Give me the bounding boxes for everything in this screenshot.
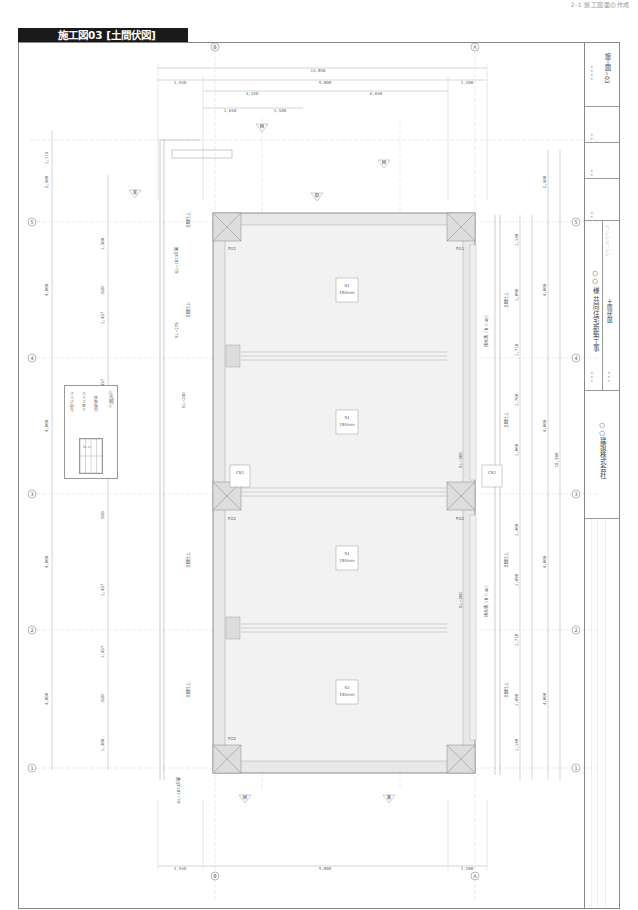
svg-text:土間仕上: 土間仕上 — [185, 302, 191, 318]
svg-text:9,800: 9,800 — [319, 80, 332, 85]
bottom-dimension-lines — [158, 800, 487, 870]
svg-text:土間仕上: 土間仕上 — [503, 682, 509, 698]
svg-text:SL−275: SL−275 — [174, 322, 179, 338]
svg-text:1,500: 1,500 — [461, 866, 474, 871]
svg-text:H: H — [382, 159, 386, 165]
svg-text:土間仕上: 土間仕上 — [185, 552, 191, 568]
svg-text:18,500: 18,500 — [554, 452, 559, 468]
svg-text:SL−300: SL−300 — [458, 592, 463, 608]
svg-text:4,000: 4,000 — [542, 555, 547, 568]
legend-line: スラブ記号 — [69, 392, 74, 412]
title-block-blank-3: ＊＊ — [585, 179, 619, 221]
svg-text:4,000: 4,000 — [542, 419, 547, 432]
svg-text:H: H — [260, 123, 264, 129]
right-dimension-text: 2,500 4,000 4,000 4,000 4,000 18,500 1,1… — [514, 175, 559, 751]
svg-text:13,850: 13,850 — [310, 68, 326, 73]
svg-text:1: 1 — [30, 765, 33, 771]
svg-text:1,090: 1,090 — [514, 573, 519, 586]
grid-row-markers-right: 5 4 3 2 1 — [572, 218, 580, 772]
legend-line: 鉄筋種別 — [93, 396, 98, 412]
svg-text:5: 5 — [30, 219, 33, 225]
svg-text:1,710: 1,710 — [514, 633, 519, 646]
slab-tag: S1 150mm — [336, 680, 358, 704]
svg-text:9,800: 9,800 — [319, 866, 332, 871]
svg-text:4: 4 — [30, 355, 33, 361]
svg-text:FG1: FG1 — [228, 246, 236, 251]
svg-text:5: 5 — [574, 219, 577, 225]
svg-text:FG2: FG2 — [228, 516, 236, 521]
svg-text:1,300: 1,300 — [100, 738, 105, 751]
svg-text:2,500: 2,500 — [44, 175, 49, 188]
title-block-empty — [585, 519, 619, 907]
svg-text:SL−250: SL−250 — [181, 392, 186, 408]
svg-text:3,150: 3,150 — [246, 91, 259, 96]
svg-text:E: E — [133, 189, 136, 195]
svg-text:A: A — [473, 873, 477, 879]
svg-text:4,000: 4,000 — [44, 283, 49, 296]
svg-text:150mm: 150mm — [339, 558, 355, 563]
svg-text:排水溝（ｈ＝40）: 排水溝（ｈ＝40） — [483, 583, 489, 616]
svg-text:FG2: FG2 — [228, 736, 236, 741]
svg-text:FG2: FG2 — [456, 516, 464, 521]
svg-text:820: 820 — [100, 286, 105, 294]
title-block-sheet-no: ＊＊＊＊ 施工図−03 — [585, 43, 619, 107]
svg-text:4,000: 4,000 — [44, 692, 49, 705]
svg-text:S1: S1 — [344, 283, 350, 288]
svg-text:D: D — [315, 192, 319, 198]
top-dimension-text: 13,850 1,550 9,800 1,500 3,150 6,650 1,6… — [174, 68, 474, 113]
svg-text:S1: S1 — [344, 685, 350, 690]
svg-text:1,140: 1,140 — [514, 233, 519, 246]
title-block: ＊＊＊＊ 施工図−03 ＊＊ ＊＊ ＊＊ ○○ 様 共同住宅新築工事 1：○○ … — [584, 43, 618, 908]
svg-text:6,650: 6,650 — [370, 91, 383, 96]
svg-text:1,457: 1,457 — [100, 645, 105, 658]
svg-text:4,000: 4,000 — [542, 283, 547, 296]
svg-text:1,090: 1,090 — [514, 288, 519, 301]
svg-text:1,400: 1,400 — [514, 523, 519, 536]
svg-text:B: B — [213, 44, 217, 50]
legend-title: ＜凡例＞ — [107, 390, 113, 408]
svg-text:1,500: 1,500 — [461, 80, 474, 85]
svg-text:1: 1 — [574, 765, 577, 771]
svg-text:GL−1815天端: GL−1815天端 — [175, 777, 181, 804]
slab-tag: S1 150mm — [336, 410, 358, 434]
svg-text:150mm: 150mm — [339, 422, 355, 427]
bottom-dimension-text: 1,550 9,800 1,500 — [174, 866, 474, 871]
svg-text:H: H — [243, 794, 247, 800]
svg-text:820: 820 — [100, 511, 105, 519]
svg-text:1,550: 1,550 — [174, 80, 187, 85]
title-block-project: ○○ 様 共同住宅新築工事 1：○○ ○：○○ 土間伏図 ＊＊＊ ＊＊＊ — [585, 221, 619, 391]
svg-text:1,550: 1,550 — [174, 866, 187, 871]
svg-text:土間仕上: 土間仕上 — [185, 682, 191, 698]
title-block-company: ○○建設株式会社 — [585, 391, 619, 519]
svg-text:t=: t= — [88, 445, 92, 449]
svg-text:GL−1815天端: GL−1815天端 — [173, 247, 179, 274]
svg-text:1,060: 1,060 — [514, 443, 519, 456]
svg-text:土間仕上: 土間仕上 — [503, 292, 509, 308]
slab-tag: S1 150mm — [336, 278, 358, 302]
title-block-blank-1: ＊＊ — [585, 107, 619, 143]
legend-line: スラブ厚さ — [81, 392, 86, 412]
svg-text:1,457: 1,457 — [100, 583, 105, 596]
svg-text:排水溝（ｈ＝40）: 排水溝（ｈ＝40） — [483, 313, 489, 346]
svg-text:CS1: CS1 — [236, 470, 244, 475]
svg-text:4,000: 4,000 — [44, 555, 49, 568]
svg-text:CS1: CS1 — [488, 470, 496, 475]
svg-text:1,115: 1,115 — [44, 151, 49, 164]
svg-text:FG1: FG1 — [456, 246, 464, 251]
svg-text:2: 2 — [574, 627, 577, 633]
svg-text:S1: S1 — [344, 415, 350, 420]
svg-text:土間仕上: 土間仕上 — [503, 552, 509, 568]
svg-text:土間仕上: 土間仕上 — [503, 412, 509, 428]
grid-row-markers-left: 5 4 3 2 1 — [28, 218, 36, 772]
legend-lines: スラブ記号 スラブ厚さ 鉄筋種別 — [69, 392, 100, 416]
svg-text:3: 3 — [30, 491, 33, 497]
svg-text:4,000: 4,000 — [44, 419, 49, 432]
svg-text:1,090: 1,090 — [514, 693, 519, 706]
svg-text:4,000: 4,000 — [542, 692, 547, 705]
svg-text:1,710: 1,710 — [514, 343, 519, 356]
svg-text:150mm: 150mm — [339, 290, 355, 295]
svg-text:2,500: 2,500 — [542, 175, 547, 188]
svg-text:1,500: 1,500 — [274, 108, 287, 113]
svg-text:A: A — [473, 44, 477, 50]
svg-text:1,140: 1,140 — [514, 738, 519, 751]
